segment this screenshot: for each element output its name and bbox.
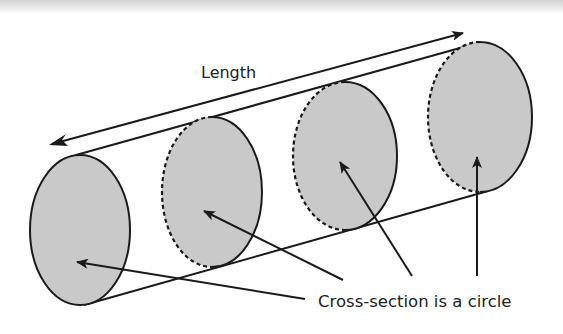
cylinder-top-edge	[76, 43, 478, 155]
cross-section-1	[30, 155, 130, 305]
cross-section-3	[293, 82, 397, 230]
cylinder-bottom-edge	[84, 191, 488, 305]
cross-section-label: Cross-section is a circle	[318, 292, 512, 311]
cross-section-4	[428, 42, 532, 192]
cylinder-diagram: Length Cross-section is a circle	[0, 0, 563, 334]
length-arrow	[52, 33, 463, 144]
length-label: Length	[201, 63, 256, 82]
cross-section-2	[162, 117, 262, 267]
